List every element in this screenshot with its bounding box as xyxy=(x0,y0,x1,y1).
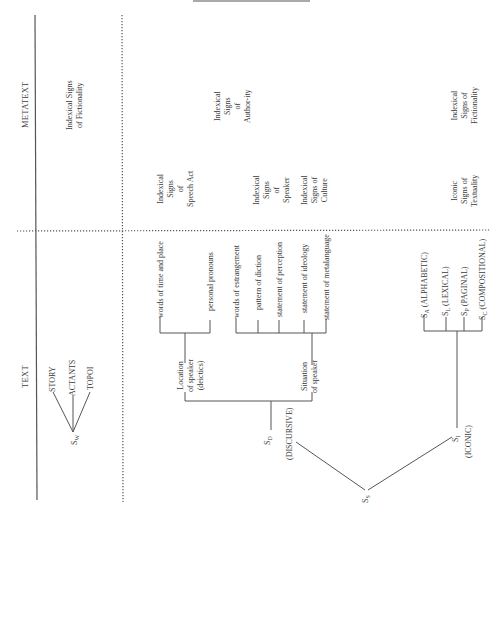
label-indexical-signs-speaker: Indexical Signs of Speaker xyxy=(252,175,292,205)
leaf-statement-metalanguage: statement of metalanguage xyxy=(322,234,332,320)
node-s-w: SW xyxy=(70,435,82,445)
label-actants: ACTANTS xyxy=(68,360,78,396)
leaf-personal-pronouns: personal pronouns xyxy=(206,252,216,311)
leaf-s-paginal: SP (PAGINAL) xyxy=(460,267,472,317)
label-indexical-signs-authority: Indexical Signs of Author-ity xyxy=(213,89,253,123)
node-s-s-root: SS xyxy=(361,495,373,503)
label-indexical-signs-fictionality-top: Indexical Signs of Fictionality xyxy=(65,80,85,130)
label-location-of-speaker: Location of speaker (deictics) xyxy=(176,359,206,392)
label-indexical-signs-fictionality-right: Indexical Signs of Fictionality xyxy=(450,87,480,124)
leaf-words-time-place: words of time and place xyxy=(156,241,166,318)
leaf-s-lexical: SL (LEXICAL) xyxy=(441,266,453,316)
label-situation-of-speaker: Situation of speaker xyxy=(300,360,320,393)
label-iconic: (ICONIC) xyxy=(464,425,474,458)
metatext-header: METATEXT xyxy=(20,81,30,128)
node-s-i: SI xyxy=(451,436,463,442)
label-discursive: (DISCURSIVE) xyxy=(285,408,295,460)
leaf-pattern-diction: pattern of diction xyxy=(254,255,264,310)
label-topoi: TOPOI xyxy=(86,367,96,390)
leaf-statement-ideology: statement of ideology xyxy=(300,244,310,313)
leaf-s-alphabetic: SA (ALPHABETIC) xyxy=(420,252,432,318)
label-iconic-signs-textuality: Iconic Signs of Textuality xyxy=(450,175,480,207)
leaf-statement-perception: statement of perception xyxy=(275,242,285,317)
node-s-d: SD xyxy=(263,436,275,445)
label-story: STORY xyxy=(48,366,58,392)
leaf-words-estrangement: words of estrangement xyxy=(232,245,242,318)
label-indexical-signs-culture: Indexical Signs of Culture xyxy=(300,175,330,205)
text-header: TEXT xyxy=(20,365,30,388)
label-indexical-signs-speech-act: Indexical Signs of Speech Act xyxy=(156,171,196,207)
leaf-s-compositional: SC (COMPOSITIONAL) xyxy=(478,239,490,320)
